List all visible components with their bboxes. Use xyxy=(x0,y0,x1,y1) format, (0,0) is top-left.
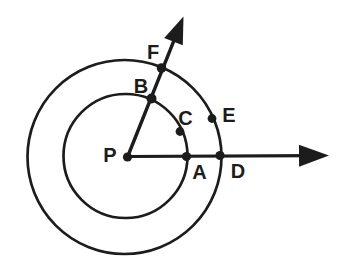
point-label-P: P xyxy=(103,144,116,166)
point-label-F: F xyxy=(147,41,159,63)
point-dot-F xyxy=(157,63,167,73)
point-dot-A xyxy=(182,152,191,161)
point-label-B: B xyxy=(134,75,148,97)
point-label-E: E xyxy=(222,104,235,126)
point-label-C: C xyxy=(178,107,192,129)
point-label-D: D xyxy=(231,160,245,182)
point-dot-D xyxy=(215,151,224,160)
ray-through-B-F-arrowhead-icon xyxy=(164,17,183,46)
point-dot-E xyxy=(208,114,217,123)
diagram-canvas: PABCDEF xyxy=(0,0,346,272)
geometry-diagram: PABCDEF xyxy=(0,0,346,272)
ray-through-A-D-arrowhead-icon xyxy=(299,145,329,167)
point-label-A: A xyxy=(192,161,206,183)
point-dot-P xyxy=(123,152,132,161)
